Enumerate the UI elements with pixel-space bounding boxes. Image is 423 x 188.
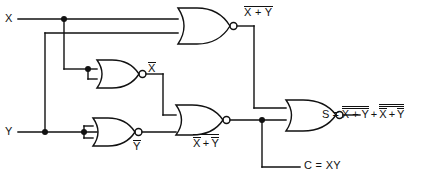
sum-term2-plus: + <box>387 108 397 120</box>
circuit-wiring-svg <box>0 0 423 188</box>
sum-output-equation: S =X + Y+X+Y <box>322 104 404 121</box>
nor3-output-label: Y <box>133 140 141 153</box>
nor2-bubble <box>139 71 146 78</box>
nor4-bubble <box>223 117 230 124</box>
junction-nor3-input <box>81 129 87 135</box>
nor4-term-y: Y <box>211 137 219 150</box>
nor4-output-expression: X+Y <box>193 134 219 150</box>
sum-term1: X + Y <box>342 108 369 121</box>
nor1-gate-body <box>178 8 230 44</box>
sum-term2-y: Y <box>397 108 404 121</box>
nor3-bubble <box>135 129 142 136</box>
junction-y <box>42 129 48 135</box>
junction-x <box>61 16 67 22</box>
sum-prefix: S = <box>322 108 339 120</box>
nor2-gate-body <box>97 60 139 88</box>
input-label-y: Y <box>5 126 13 137</box>
sum-term2-x: X <box>379 108 386 121</box>
nor4-plus: + <box>201 137 212 149</box>
nor1-output-expression: X + Y <box>244 6 273 19</box>
sum-term2-outerbar: X+Y <box>379 104 404 121</box>
x-bar-expression: X <box>148 62 156 75</box>
y-bar-expression: Y <box>133 140 141 153</box>
carry-output-label: C = XY <box>304 160 341 171</box>
nor4-output-label: X+Y <box>193 134 219 150</box>
sum-term2-innerbar: X+Y <box>379 106 404 121</box>
nor4-gate-body <box>176 105 223 135</box>
logic-circuit-diagram: X Y X + Y X Y X+Y S =X + Y+X+Y C = XY <box>0 0 423 188</box>
input-label-x: X <box>5 13 13 24</box>
nor3-gate-body <box>93 118 135 146</box>
nor2-output-label: X <box>148 62 156 75</box>
junction-carry <box>259 117 265 123</box>
sum-plus: + <box>369 108 379 120</box>
nor4-term-x: X <box>193 137 201 150</box>
nor1-output-label: X + Y <box>244 6 273 19</box>
junction-nor2-input <box>85 66 91 72</box>
sum-term1-outerbar: X + Y <box>342 106 369 121</box>
nor1-bubble <box>230 23 237 30</box>
